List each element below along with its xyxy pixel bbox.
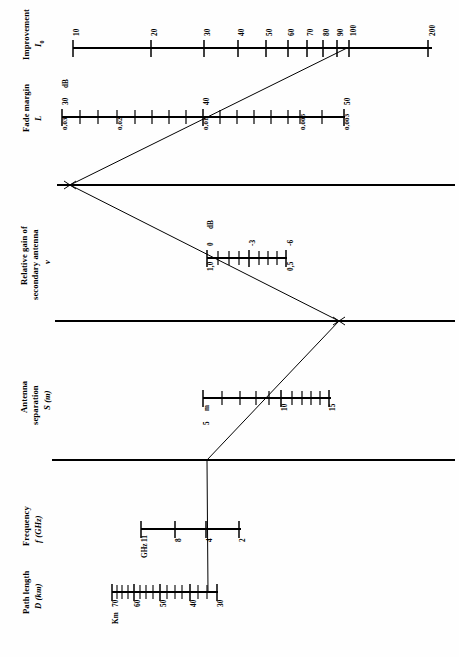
axis-antenna-separation [203, 390, 331, 407]
isopleth-segment-3 [70, 185, 339, 321]
ticklabel-fade-margin-50: 50 [344, 98, 352, 106]
ticklabel-improvement-10: 10 [73, 29, 81, 37]
isopleth-segment-2 [207, 321, 339, 460]
axis-title-path-length-l2: D (km) [34, 583, 43, 609]
ticklabel-improvement-30: 30 [204, 29, 212, 37]
nomogram-figure: Improvement I0 Fade margin L Relative ga… [0, 0, 459, 657]
ticklabel-relative-gain-0: 0 [207, 242, 215, 246]
axis-title-frequency-l2: f (GHz) [34, 515, 43, 543]
ticklabel-fade-margin-p-0005: 0,005 [300, 114, 307, 130]
ticklabel-relative-gain-minus6: -6 [287, 240, 295, 246]
ticklabel-relative-gain-minus3: -3 [249, 240, 257, 246]
ticklabel-fade-margin-30: 30 [62, 98, 70, 106]
ticklabel-improvement-100: 100 [350, 25, 358, 36]
ticklabel-path-length-30: 30 [217, 600, 225, 608]
unitlabel-fade-margin-db: dB [62, 79, 70, 88]
axis-title-relative-gain-symbol: v [43, 260, 52, 264]
axis-title-relative-gain-l2: secondary antenna [31, 229, 40, 300]
ticklabel-relative-gain-ratio-05: 0,5 [287, 262, 295, 271]
ticklabel-improvement-60: 60 [288, 29, 296, 37]
ticklabel-improvement-50: 50 [266, 29, 274, 37]
axis-title-frequency-l1: Frequency [22, 506, 31, 546]
ticklabel-path-length-50: 50 [160, 600, 168, 608]
ticklabel-antenna-separation-10: 10 [281, 404, 289, 412]
axis-title-path-length-l1: Path length [22, 571, 31, 614]
axis-title-improvement: Improvement [22, 9, 31, 60]
axis-title-antenna-separation-l1: Antenna [20, 381, 29, 413]
ticklabel-antenna-separation-5: 5 [203, 421, 211, 425]
ticklabel-fade-margin-p-003: 0,03 [62, 117, 69, 130]
ticklabel-fade-margin-40: 40 [203, 98, 211, 106]
ticklabel-frequency-4: 4 [206, 538, 214, 542]
unitlabel-antenna-separation-m: m [203, 405, 211, 411]
axis-title-fade-margin-symbol: L [34, 116, 43, 121]
ticklabel-antenna-separation-15: 15 [329, 404, 337, 412]
ticklabel-improvement-200: 200 [429, 25, 437, 36]
ticklabel-path-length-70: 70 [112, 600, 120, 608]
axis-title-improvement-symbol: I0 [34, 40, 45, 47]
ticklabel-fade-margin-p-002: 0,02 [117, 117, 124, 130]
ticklabel-improvement-20: 20 [151, 29, 159, 37]
isopleth-segment-1 [207, 460, 208, 592]
unitlabel-frequency-ghz: GHz [141, 543, 149, 558]
ticklabel-frequency-8: 8 [175, 538, 183, 542]
ticklabel-improvement-40: 40 [238, 29, 246, 37]
ticklabel-relative-gain-ratio-10: 1,0 [207, 262, 215, 271]
ticklabel-path-length-40: 40 [190, 600, 198, 608]
axis-title-fade-margin: Fade margin [22, 84, 31, 132]
axis-title-antenna-separation-l2: separation [31, 385, 40, 425]
axis-relative-gain [207, 250, 287, 267]
ticklabel-frequency-2: 2 [239, 538, 247, 542]
ticklabel-improvement-90: 90 [337, 29, 345, 37]
unitlabel-path-length-km: Km [112, 612, 120, 624]
ticklabel-fade-margin-p-001: 0,01 [203, 117, 210, 130]
ticklabel-fade-margin-p-0003: 0,003 [344, 114, 351, 130]
axis-frequency [141, 521, 241, 538]
ticklabel-improvement-70: 70 [307, 29, 315, 37]
axis-improvement [73, 40, 432, 57]
unitlabel-relative-gain-db: dB [207, 220, 215, 229]
axis-title-antenna-separation-l3: S (m) [43, 390, 52, 410]
ticklabel-frequency-11: 11 [141, 535, 149, 542]
ticklabel-improvement-80: 80 [323, 29, 331, 37]
ticklabel-path-length-60: 60 [134, 600, 142, 608]
axis-title-relative-gain-l1: Relative gain of [20, 226, 29, 285]
